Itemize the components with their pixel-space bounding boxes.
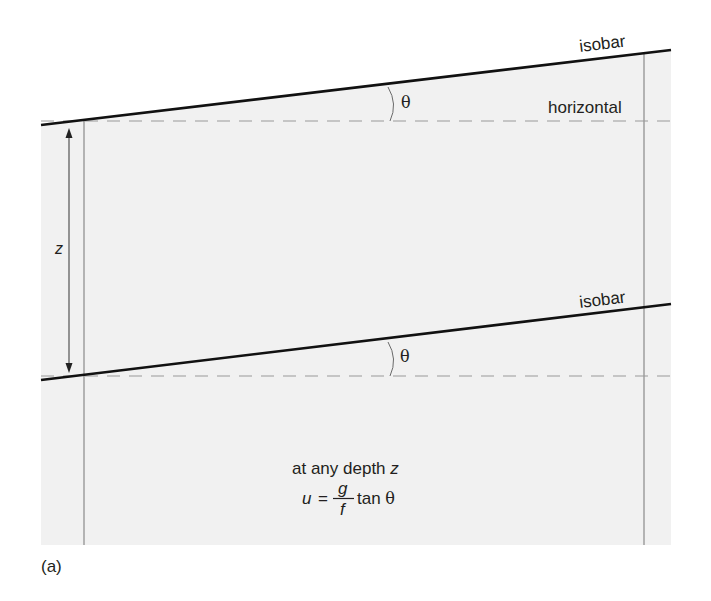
equation-numerator-g: g xyxy=(338,479,348,498)
depth-label-z: z xyxy=(54,240,63,257)
upper-isobar-label: isobar xyxy=(578,32,627,56)
geostrophic-slope-diagram: isobar horizontal θ isobar θ z at any de… xyxy=(0,0,711,601)
equation-caption: at any depth z xyxy=(292,459,399,478)
equation-theta: θ xyxy=(385,489,395,508)
equation-tan: tan xyxy=(357,489,385,508)
panel-label: (a) xyxy=(41,557,62,576)
equation-rhs: tan θ xyxy=(357,489,395,508)
horizontal-label: horizontal xyxy=(548,98,622,117)
caption-var-z: z xyxy=(389,459,399,478)
caption-text: at any depth xyxy=(292,459,390,478)
equation-equals: = xyxy=(318,489,328,508)
lower-angle-theta: θ xyxy=(400,347,410,366)
upper-angle-theta: θ xyxy=(401,93,411,112)
equation-lhs-u: u xyxy=(302,489,312,508)
